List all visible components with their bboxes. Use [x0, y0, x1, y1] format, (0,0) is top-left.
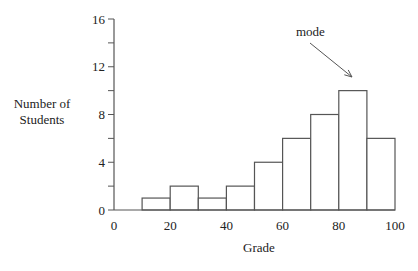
mode-arrow-icon: [310, 43, 352, 77]
y-tick-label: 0: [99, 203, 106, 218]
histogram-bar: [198, 198, 226, 210]
y-tick-label: 8: [99, 107, 106, 122]
histogram-bar: [226, 186, 254, 210]
x-tick-label: 60: [276, 218, 289, 233]
histogram-chart: 0481216020406080100: [0, 0, 418, 271]
y-axis-label-line2: Students: [2, 112, 82, 128]
mode-annotation: mode: [296, 24, 325, 40]
histogram-bar: [339, 91, 367, 210]
y-tick-label: 16: [92, 12, 106, 27]
x-tick-label: 20: [164, 218, 177, 233]
histogram-bar: [283, 138, 311, 210]
y-tick-label: 12: [92, 59, 105, 74]
y-tick-label: 4: [99, 155, 106, 170]
x-axis-label: Grade: [234, 240, 284, 256]
y-axis-label-line1: Number of: [2, 96, 82, 112]
histogram-bar: [255, 162, 283, 210]
histogram-bar: [367, 138, 395, 210]
histogram-bar: [170, 186, 198, 210]
x-tick-label: 0: [111, 218, 118, 233]
y-axis-label: Number of Students: [2, 96, 82, 128]
histogram-bar: [311, 115, 339, 211]
x-tick-label: 40: [220, 218, 233, 233]
x-tick-label: 100: [385, 218, 405, 233]
x-tick-label: 80: [332, 218, 345, 233]
histogram-bar: [142, 198, 170, 210]
